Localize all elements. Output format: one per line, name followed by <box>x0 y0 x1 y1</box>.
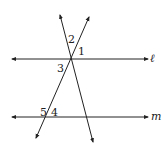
angle-label-2: 2 <box>68 33 75 46</box>
angle-label-4: 4 <box>51 106 58 119</box>
line-label-l: ℓ <box>150 52 155 65</box>
angle-label-1: 1 <box>78 45 85 58</box>
parallel-lines-diagram: 2 1 3 5 4 ℓ m <box>0 0 164 147</box>
angle-label-5: 5 <box>40 106 47 119</box>
angle-label-3: 3 <box>57 62 64 75</box>
line-label-m: m <box>151 110 161 123</box>
transversal-2 <box>36 17 89 138</box>
transversal-1 <box>60 15 93 142</box>
